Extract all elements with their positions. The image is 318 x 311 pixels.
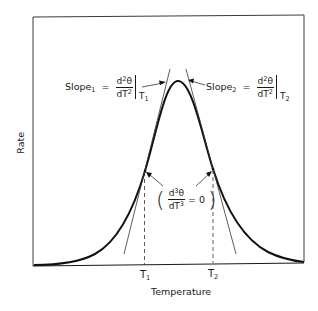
slope1-eval-sub: 1 [144,95,148,103]
slope2-annotation: Slope2 = d2θ dT2 T2 [206,75,277,99]
diagram-canvas [0,0,318,311]
slope1-den-exp: 2 [128,88,132,96]
inflection-point-t1 [144,170,147,173]
slope1-annotation: Slope1 = d2θ dT2 T1 [65,75,136,99]
inflection-annotation: ( d3θ dT3 = 0 ) [156,188,217,211]
inflection-point-t2 [212,168,215,171]
slope1-index: 1 [91,86,95,94]
x-tick-t2: T2 [208,269,218,281]
x-tick-t1-sub: 1 [146,274,150,282]
inflection-fraction: d3θ dT3 [168,188,185,211]
inflection-equals: = 0 [188,194,205,205]
slope2-num-var: θ [267,76,273,86]
slope2-eval-sub: 2 [285,95,289,103]
slope1-fraction: d2θ dT2 [116,76,133,99]
slope2-equals: = [243,81,251,92]
inflection-den-exp: 3 [180,200,184,208]
inflection-arrowhead-t1-icon [146,172,152,178]
inflection-arrow-t1 [150,175,163,186]
slope2-den-exp: 2 [269,88,273,96]
inflection-num-var: θ [178,188,184,198]
slope2-fraction: d2θ dT2 [257,76,274,99]
slope2-index: 2 [232,86,236,94]
slope2-prefix: Slope [206,81,232,92]
slope1-prefix: Slope [65,81,91,92]
inflection-arrow-t2 [196,174,209,186]
y-axis-label: Rate [16,132,26,154]
x-axis-label: Temperature [151,287,211,297]
x-axis [33,263,304,266]
slope1-eval-bar: T1 [135,75,136,99]
inflection-open-paren: ( [156,187,165,212]
x-tick-t1: T1 [140,270,150,282]
inflection-close-paren: ) [208,187,217,212]
plot-frame [33,15,304,266]
slope2-eval-bar: T2 [276,75,277,99]
slope1-num-var: θ [126,76,132,86]
x-tick-t2-sub: 2 [214,273,218,281]
rate-curve [34,81,304,265]
slope1-equals: = [102,81,110,92]
slope1-arrowhead-icon [159,81,166,86]
